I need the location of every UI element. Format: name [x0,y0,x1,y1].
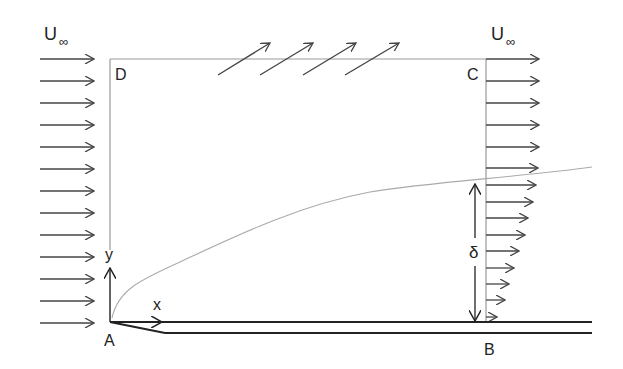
freestream-left-subscript: ∞ [59,34,68,49]
freestream-right-subscript: ∞ [506,34,515,49]
freestream-left-label: U [44,24,57,44]
outflow-velocity-profile [486,59,539,317]
y-axis-label: y [105,246,113,263]
corner-d-label: D [115,66,127,83]
boundary-layer-edge [112,167,592,318]
control-volume [110,59,486,322]
delta-label: δ [469,243,478,262]
flat-plate [110,322,592,333]
freestream-right-label: U [491,24,504,44]
corner-a-label: A [104,332,115,349]
coordinate-axes [110,268,162,322]
inflow-arrows [40,59,94,323]
corner-b-label: B [484,341,495,358]
boundary-layer-diagram: U ∞ U ∞ D C A B y x δ [0,0,623,369]
x-axis-label: x [153,296,161,313]
corner-c-label: C [467,66,479,83]
